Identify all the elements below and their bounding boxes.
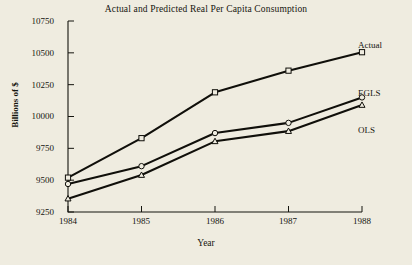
data-point-egls-1987 — [286, 120, 291, 125]
data-point-actual-1988 — [359, 50, 364, 55]
series-paths — [68, 52, 362, 198]
axis-lines — [68, 21, 362, 212]
data-point-actual-1987 — [286, 68, 291, 73]
x-tick-marks — [68, 206, 362, 212]
data-point-actual-1986 — [212, 90, 217, 95]
data-point-actual-1985 — [139, 136, 144, 141]
series-line-ols — [68, 105, 362, 199]
series-markers — [65, 50, 365, 201]
chart-plot-area — [0, 0, 412, 265]
data-point-egls-1984 — [65, 181, 70, 186]
series-line-actual — [68, 52, 362, 177]
chart-figure: Actual and Predicted Real Per Capita Con… — [0, 0, 412, 265]
data-point-egls-1986 — [212, 130, 217, 135]
data-point-egls-1988 — [359, 95, 364, 100]
data-point-egls-1985 — [139, 163, 144, 168]
data-point-actual-1984 — [65, 175, 70, 180]
data-point-ols-1988 — [359, 102, 365, 107]
